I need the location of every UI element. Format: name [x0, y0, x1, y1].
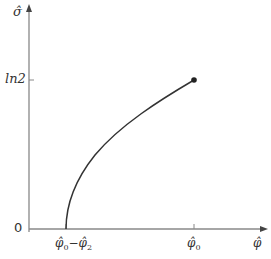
- x-tick-label-phi2-symbol: φ̂: [79, 236, 87, 250]
- x-axis-arrow-icon: [260, 226, 268, 232]
- x-tick-label-phi0-minus-phi2: φ̂0−φ̂2: [55, 236, 92, 252]
- y-tick-label-ln2: ln2: [5, 71, 26, 86]
- endpoint-marker: [191, 77, 197, 83]
- curve-line: [66, 80, 194, 229]
- y-tick-label-zero: 0: [14, 220, 22, 235]
- chart: σ̂ ln2 0 φ̂0−φ̂2 φ̂0 φ̂: [0, 0, 271, 259]
- y-axis-arrow-icon: [26, 4, 32, 12]
- x-axis-label: φ̂: [253, 236, 261, 250]
- chart-plot: [0, 0, 271, 259]
- x-tick-label-phi0-right-sub: 0: [195, 243, 200, 252]
- x-tick-label-minus: −: [69, 236, 79, 250]
- x-tick-label-phi2-sub: 2: [87, 243, 92, 252]
- y-axis-label: σ̂: [13, 4, 22, 19]
- x-tick-label-phi0: φ̂0: [187, 236, 201, 252]
